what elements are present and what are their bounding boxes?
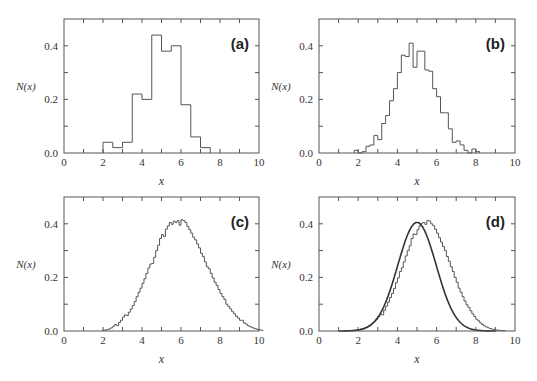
x-axis-title: x xyxy=(158,174,165,188)
figure-2x2-histograms: 02468100.00.20.4xN(x)(a) 02468100.00.20.… xyxy=(0,0,537,381)
y-tick-label: 0.4 xyxy=(44,40,58,52)
x-tick-label: 2 xyxy=(355,334,361,346)
x-tick-label: 10 xyxy=(254,334,266,346)
x-tick-label: 6 xyxy=(178,156,184,168)
x-tick-label: 2 xyxy=(100,156,106,168)
y-tick-label: 0.4 xyxy=(299,40,313,52)
x-axis-title: x xyxy=(413,174,420,188)
x-axis-title: x xyxy=(158,352,165,366)
x-tick-label: 4 xyxy=(395,334,401,346)
x-tick-label: 2 xyxy=(100,334,106,346)
panel-d: 02468100.00.20.4xN(x)(d) xyxy=(270,197,521,366)
y-axis-title: N(x) xyxy=(270,258,291,271)
x-tick-label: 6 xyxy=(434,156,440,168)
x-tick-label: 10 xyxy=(510,334,522,346)
x-tick-label: 6 xyxy=(434,334,440,346)
y-tick-label: 0.2 xyxy=(299,93,313,105)
y-tick-label: 0.0 xyxy=(299,147,313,159)
x-tick-label: 0 xyxy=(316,156,322,168)
y-tick-label: 0.2 xyxy=(44,93,58,105)
y-tick-label: 0.4 xyxy=(44,218,58,230)
y-tick-label: 0.0 xyxy=(299,325,313,337)
y-axis-title: N(x) xyxy=(270,80,291,93)
x-tick-label: 10 xyxy=(510,156,522,168)
x-tick-label: 8 xyxy=(217,334,223,346)
y-tick-label: 0.2 xyxy=(44,271,58,283)
y-tick-label: 0.2 xyxy=(299,271,313,283)
panel-c: 02468100.00.20.4xN(x)(c) xyxy=(15,197,265,366)
gaussian-fit-curve xyxy=(339,222,496,331)
y-tick-label: 0.4 xyxy=(299,218,313,230)
panel-b: 02468100.00.20.4xN(x)(b) xyxy=(270,19,521,188)
y-tick-label: 0.0 xyxy=(44,147,58,159)
y-axis-title: N(x) xyxy=(15,80,36,93)
x-tick-label: 0 xyxy=(61,334,67,346)
x-tick-label: 8 xyxy=(473,334,479,346)
panel-a: 02468100.00.20.4xN(x)(a) xyxy=(15,19,265,188)
histogram-steps xyxy=(103,35,210,153)
x-tick-label: 0 xyxy=(316,334,322,346)
histogram-steps xyxy=(354,43,479,153)
x-axis-title: x xyxy=(413,352,420,366)
histogram-steps xyxy=(103,220,263,331)
y-axis-title: N(x) xyxy=(15,258,36,271)
x-tick-label: 8 xyxy=(217,156,223,168)
x-tick-label: 4 xyxy=(139,334,145,346)
x-tick-label: 8 xyxy=(473,156,479,168)
x-tick-label: 4 xyxy=(139,156,145,168)
y-tick-label: 0.0 xyxy=(44,325,58,337)
panel-label: (c) xyxy=(231,213,249,230)
panel-label: (d) xyxy=(486,213,505,230)
panel-label: (b) xyxy=(486,35,505,52)
x-tick-label: 0 xyxy=(61,156,67,168)
x-tick-label: 2 xyxy=(355,156,361,168)
panel-label: (a) xyxy=(231,35,249,52)
x-tick-label: 4 xyxy=(395,156,401,168)
x-tick-label: 10 xyxy=(254,156,266,168)
x-tick-label: 6 xyxy=(178,334,184,346)
